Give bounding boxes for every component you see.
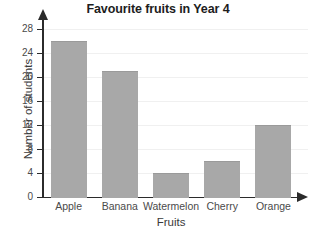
x-axis-label: Fruits bbox=[43, 216, 299, 228]
y-tick-label: 12 bbox=[0, 119, 33, 130]
y-tick-label: 8 bbox=[0, 143, 33, 154]
y-tick-label: 28 bbox=[0, 23, 33, 34]
y-axis-line bbox=[42, 18, 44, 198]
y-tick-label: 24 bbox=[0, 47, 33, 58]
bar-chart: Favourite fruits in Year 4 Number of stu… bbox=[0, 0, 316, 238]
y-tick-label: 20 bbox=[0, 71, 33, 82]
y-tick-label: 4 bbox=[0, 167, 33, 178]
bar bbox=[51, 41, 87, 198]
y-tick-label: 16 bbox=[0, 95, 33, 106]
y-tick-label: 0 bbox=[0, 191, 33, 202]
y-axis-arrow-icon bbox=[38, 9, 48, 20]
bar bbox=[102, 71, 138, 198]
bar bbox=[255, 125, 291, 198]
x-tick-label: Orange bbox=[242, 200, 305, 212]
bar bbox=[204, 161, 240, 198]
gridline bbox=[43, 29, 308, 30]
bar bbox=[153, 173, 189, 198]
